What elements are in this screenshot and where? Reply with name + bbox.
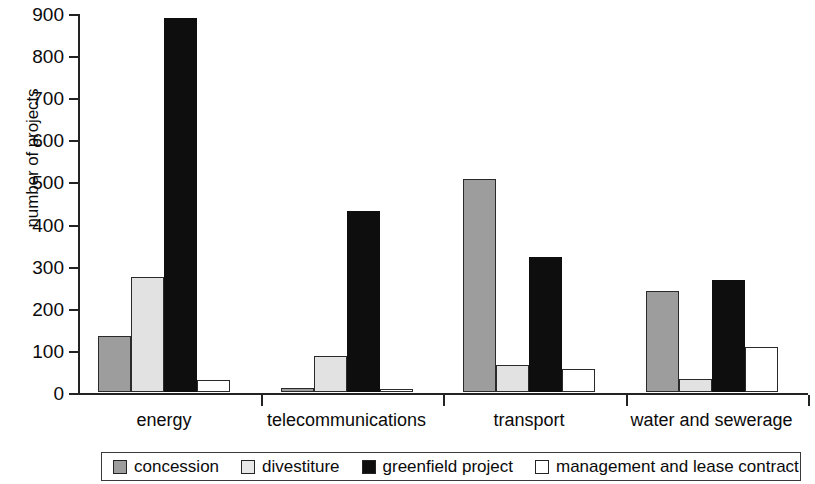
x-axis-category-label: water and sewerage: [630, 410, 792, 431]
y-axis-tick-mark: [69, 225, 78, 227]
y-axis-tick-mark: [69, 98, 78, 100]
y-axis-tick-label: 200: [32, 299, 64, 318]
legend-label: management and lease contract: [556, 458, 799, 475]
y-axis-tick-label: 500: [32, 173, 64, 192]
y-axis-tick-label: 600: [32, 131, 64, 150]
y-axis-tick-label: 800: [32, 47, 64, 66]
x-axis-category-label: energy: [136, 410, 191, 431]
bar-water-and-sewerage-divestiture: [679, 379, 712, 392]
plot-area: 9008007006005004003002001000 energytelec…: [78, 14, 808, 394]
bar-telecommunications-divestiture: [314, 356, 347, 392]
bar-energy-management-and-lease-contract: [197, 380, 230, 392]
bar-energy-greenfield-project: [164, 18, 197, 392]
bar-water-and-sewerage-greenfield-project: [712, 280, 745, 392]
y-axis-tick-mark: [69, 56, 78, 58]
x-axis-category-label: telecommunications: [267, 410, 426, 431]
bar-transport-greenfield-project: [529, 257, 562, 392]
y-axis-tick-label: 300: [32, 257, 64, 276]
bar-water-and-sewerage-concession: [646, 291, 679, 392]
x-axis-category-label: transport: [493, 410, 564, 431]
chart-legend: concessiondivestituregreenfield projectm…: [101, 452, 801, 481]
y-axis-line: [78, 14, 80, 395]
bar-energy-divestiture: [131, 277, 164, 392]
y-axis-tick-mark: [69, 351, 78, 353]
bar-telecommunications-concession: [281, 388, 314, 392]
bar-telecommunications-greenfield-project: [347, 211, 380, 392]
bar-transport-concession: [463, 179, 496, 392]
legend-item-greenfield: greenfield project: [362, 458, 513, 475]
x-axis-tick-mark: [808, 395, 810, 406]
legend-label: greenfield project: [383, 458, 513, 475]
bar-transport-management-and-lease-contract: [562, 369, 595, 392]
y-axis-tick-label: 900: [32, 5, 64, 24]
legend-item-concession: concession: [113, 458, 219, 475]
legend-label: concession: [134, 458, 219, 475]
bar-chart-figure: number of projects 900800700600500400300…: [0, 0, 815, 484]
legend-swatch-management-icon: [535, 460, 549, 474]
legend-label: divestiture: [262, 458, 339, 475]
x-axis-tick-mark: [443, 395, 445, 406]
legend-item-divestiture: divestiture: [241, 458, 339, 475]
bar-telecommunications-management-and-lease-contract: [380, 389, 413, 392]
y-axis-tick-mark: [69, 309, 78, 311]
legend-swatch-divestiture-icon: [241, 460, 255, 474]
y-axis-tick-label: 100: [32, 341, 64, 360]
x-axis-tick-mark: [626, 395, 628, 406]
y-axis-tick-mark: [69, 14, 78, 16]
y-axis-tick-label: 400: [32, 215, 64, 234]
legend-swatch-concession-icon: [113, 460, 127, 474]
y-axis-tick-mark: [69, 393, 78, 395]
y-axis-tick-label: 0: [53, 384, 64, 403]
legend-swatch-greenfield-icon: [362, 460, 376, 474]
bar-transport-divestiture: [496, 365, 529, 392]
y-axis-tick-mark: [69, 182, 78, 184]
x-axis-tick-mark: [261, 395, 263, 406]
y-axis-tick-label: 700: [32, 89, 64, 108]
y-axis-tick-mark: [69, 140, 78, 142]
legend-item-management: management and lease contract: [535, 458, 799, 475]
y-axis-tick-mark: [69, 267, 78, 269]
bar-energy-concession: [98, 336, 131, 392]
bar-water-and-sewerage-management-and-lease-contract: [745, 347, 778, 392]
